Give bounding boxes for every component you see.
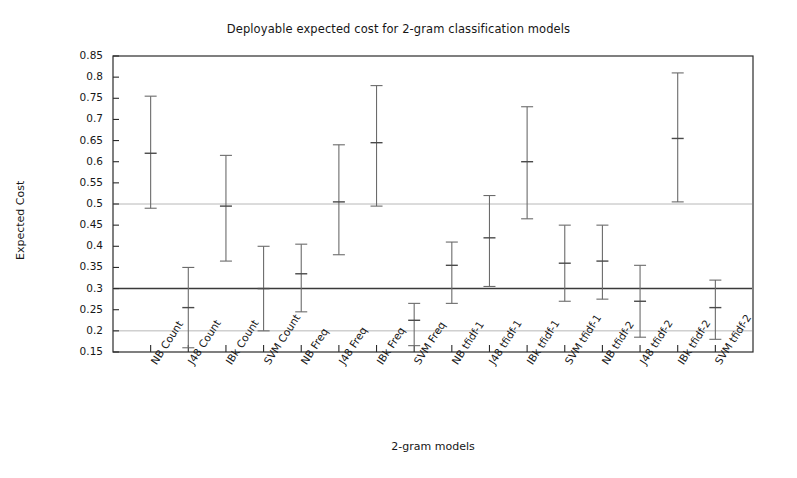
- y-tick-label: 0.15: [57, 346, 103, 357]
- y-tick-label: 0.4: [57, 240, 103, 251]
- y-tick-label: 0.25: [57, 304, 103, 315]
- y-tick-label: 0.35: [57, 261, 103, 272]
- y-tick-label: 0.65: [57, 135, 103, 146]
- y-tick-label: 0.75: [57, 92, 103, 103]
- y-tick-label: 0.2: [57, 325, 103, 336]
- chart-figure: Deployable expected cost for 2-gram clas…: [0, 0, 797, 478]
- y-tick-label: 0.55: [57, 177, 103, 188]
- y-tick-label: 0.45: [57, 219, 103, 230]
- y-tick-label: 0.6: [57, 156, 103, 167]
- y-tick-label: 0.7: [57, 113, 103, 124]
- plot-area: [0, 0, 797, 478]
- y-tick-label: 0.85: [57, 50, 103, 61]
- y-tick-label: 0.3: [57, 283, 103, 294]
- y-tick-label: 0.5: [57, 198, 103, 209]
- y-tick-label: 0.8: [57, 71, 103, 82]
